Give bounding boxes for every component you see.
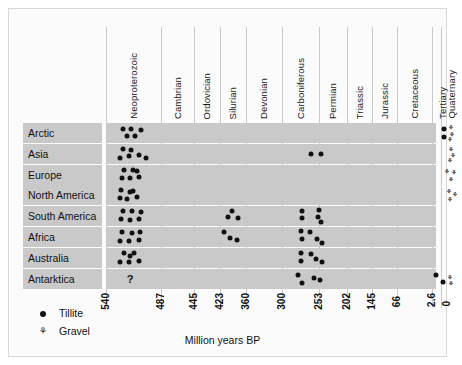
unknown-marker: ? [127, 273, 134, 285]
table-row: Africa [23, 227, 436, 247]
tillite-marker [130, 230, 135, 235]
x-tick-label: 202 [342, 293, 352, 310]
row-label-asia: Asia [23, 144, 102, 164]
tillite-marker [120, 175, 125, 180]
tillite-marker [139, 210, 144, 215]
row-label-north-america: North America [23, 185, 102, 205]
period-header-carboniferous: Carboniferous [282, 27, 319, 119]
tillite-marker [235, 237, 240, 242]
tillite-marker [317, 208, 322, 213]
x-tick-label: 2.6 [427, 293, 437, 307]
row-track-south-america [106, 206, 436, 226]
x-tick-label: 253 [314, 293, 324, 310]
x-tick: 202 [342, 293, 352, 314]
figure-frame: Neoproterozoic Cambrian Ordovician Silur… [8, 8, 447, 357]
period-header-cretaceous: Cretaceous [397, 27, 432, 119]
x-tick: 300 [277, 293, 287, 314]
tillite-marker [118, 196, 123, 201]
row-label-australia: Australia [23, 248, 102, 268]
period-header-ordovician: Ordovician [194, 27, 220, 119]
x-tick: 66 [392, 293, 402, 311]
tillite-marker [135, 168, 140, 173]
tillite-marker [441, 279, 446, 284]
tillite-marker [121, 127, 126, 132]
tillite-marker [299, 258, 304, 263]
gravel-marker: ⚘ [447, 137, 453, 144]
period-header-jurassic: Jurassic [372, 27, 397, 119]
x-tick-label: 360 [241, 293, 251, 310]
x-tick: 145 [367, 293, 377, 314]
table-row: Antarktica ? ⚘ ⚘ [23, 269, 436, 289]
tillite-marker [320, 259, 325, 264]
row-track-arctic: ⚘ ⚘ ⚘ [106, 123, 436, 143]
tillite-marker [122, 167, 127, 172]
tillite-marker [299, 250, 304, 255]
tillite-marker [121, 146, 126, 151]
tillite-marker [228, 235, 233, 240]
tillite-marker [299, 228, 304, 233]
x-tick-label: 423 [215, 293, 225, 310]
tillite-marker [309, 251, 314, 256]
row-track-asia: ⚘ ⚘ ⚘ [106, 144, 436, 164]
period-header-silurian: Silurian [220, 27, 246, 119]
tillite-marker [128, 190, 133, 195]
tillite-marker [137, 258, 142, 263]
tillite-marker [130, 209, 135, 214]
period-headers: Neoproterozoic Cambrian Ordovician Silur… [106, 27, 436, 119]
period-label: Ordovician [202, 73, 212, 119]
table-row: Asia ⚘ ⚘ ⚘ [23, 144, 436, 164]
tillite-marker [308, 229, 313, 234]
period-header-triassic: Triassic [347, 27, 372, 119]
x-tick-label: 487 [156, 293, 166, 310]
x-tick-label: 300 [277, 293, 287, 310]
tillite-marker [318, 277, 323, 282]
row-track-africa [106, 227, 436, 247]
row-track-europe: ⚘ ⚘ ⚘ [106, 165, 436, 185]
period-header-neoproterozoic: Neoproterozoic [106, 27, 161, 119]
tillite-marker [300, 236, 305, 241]
tillite-marker [122, 250, 127, 255]
gravel-marker: ⚘ [448, 280, 454, 287]
tillite-marker [137, 217, 142, 222]
row-label-antarktica: Antarktica [23, 269, 102, 289]
row-track-antarktica: ? ⚘ ⚘ [106, 269, 436, 289]
legend-label-tillite: Tillite [53, 307, 83, 319]
tillite-marker [144, 155, 149, 160]
legend-label-gravel: Gravel [53, 325, 90, 337]
period-label: Cretaceous [410, 69, 420, 119]
tillite-marker [125, 134, 130, 139]
tillite-marker [442, 135, 447, 140]
row-track-australia [106, 248, 436, 268]
gravel-marker: ⚘ [444, 168, 450, 175]
row-label-europe: Europe [23, 165, 102, 185]
tillite-marker [119, 217, 124, 222]
x-tick: 2.6 [427, 293, 437, 311]
tillite-marker [128, 218, 133, 223]
x-axis-ticks: 540 487 445 423 360 300 253 202 [106, 293, 436, 327]
tillite-marker [138, 229, 143, 234]
tillite-marker [222, 229, 227, 234]
tillite-marker [319, 220, 324, 225]
row-track-north-america: ⚘ ⚘ ⚘ [106, 185, 436, 205]
legend-item-tillite: Tillite [33, 304, 143, 322]
table-row: Europe ⚘ ⚘ ⚘ [23, 165, 436, 185]
tillite-icon [33, 308, 53, 319]
tillite-marker [300, 216, 305, 221]
x-tick: 423 [215, 293, 225, 314]
period-header-quaternary: Quaternary [441, 27, 462, 119]
period-label: Quaternary [447, 70, 457, 119]
tillite-marker [312, 275, 317, 280]
x-tick-label: 445 [189, 293, 199, 310]
period-header-cambrian: Cambrian [161, 27, 194, 119]
tillite-marker [314, 256, 319, 261]
tillite-marker [442, 127, 447, 132]
legend: Tillite ⚘ Gravel [33, 304, 143, 340]
tillite-marker [127, 259, 132, 264]
tillite-marker [135, 195, 140, 200]
tillite-marker [300, 209, 305, 214]
tillite-marker [118, 259, 123, 264]
period-header-permian: Permian [319, 27, 347, 119]
tillite-marker [315, 236, 320, 241]
tillite-marker [137, 237, 142, 242]
